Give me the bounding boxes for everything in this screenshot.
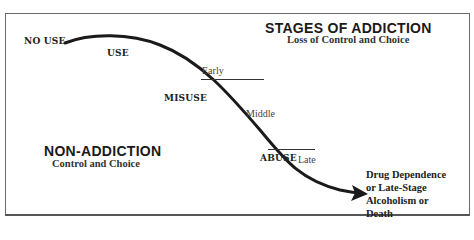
label-use: USE: [107, 48, 129, 58]
stage-late: Late: [298, 154, 316, 165]
label-no-use: NO USE: [24, 36, 66, 46]
label-misuse: MISUSE: [164, 93, 207, 103]
non-addiction-heading: NON-ADDICTION: [44, 143, 161, 159]
end-point-text: Drug Dependence or Late-Stage Alcoholism…: [366, 168, 446, 220]
end-line-2: or Late-Stage: [366, 181, 446, 194]
curve-path: [65, 36, 360, 193]
end-line-4: Death: [366, 207, 446, 220]
stage-divider-early: [201, 79, 264, 80]
title-subheading: Loss of Control and Choice: [287, 34, 409, 45]
end-line-1: Drug Dependence: [366, 168, 446, 181]
stage-divider-late: [268, 149, 315, 150]
end-line-3: Alcoholism or: [366, 194, 446, 207]
stage-early: Early: [202, 65, 224, 76]
label-abuse: ABUSE: [260, 153, 297, 163]
non-addiction-subheading: Control and Choice: [52, 158, 140, 169]
stage-middle: Middle: [246, 108, 275, 119]
